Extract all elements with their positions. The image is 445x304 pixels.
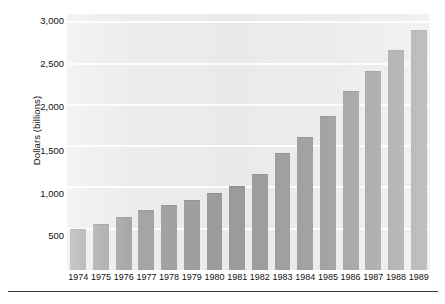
bar-1978 — [161, 205, 177, 270]
x-tick-label: 1977 — [135, 272, 158, 283]
x-axis-tick-labels: 1974197519761977197819791980198119821983… — [67, 272, 430, 286]
y-tick-label: 2,000 — [16, 102, 64, 112]
x-tick-label: 1983 — [271, 272, 294, 283]
x-tick-label: 1985 — [317, 272, 340, 283]
y-tick-label: 2,500 — [16, 59, 64, 69]
y-tick-label: 500 — [16, 231, 64, 241]
x-tick-label: 1987 — [362, 272, 385, 283]
x-tick-label: 1980 — [203, 272, 226, 283]
bar-1983 — [275, 153, 291, 270]
bar-1981 — [229, 186, 245, 270]
bar-1985 — [320, 116, 336, 270]
y-tick-label: 3,000 — [16, 16, 64, 26]
bar-chart-figure: Dollars (billions) 3,000 2,500 2,000 1,5… — [0, 0, 445, 304]
bar-1974 — [70, 229, 86, 270]
x-tick-label: 1986 — [339, 272, 362, 283]
bar-1987 — [365, 71, 381, 270]
bar-1986 — [343, 91, 359, 270]
y-axis-tick-labels: 3,000 2,500 2,000 1,500 1,000 500 — [16, 0, 64, 304]
x-tick-label: 1978 — [158, 272, 181, 283]
bar-1979 — [184, 200, 200, 270]
bar-1975 — [93, 224, 109, 270]
bar-1977 — [138, 210, 154, 270]
plot-area — [67, 14, 430, 270]
bar-1982 — [252, 174, 268, 270]
bar-1976 — [116, 217, 132, 270]
y-tick-label: 1,500 — [16, 146, 64, 156]
x-tick-label: 1979 — [180, 272, 203, 283]
x-tick-label: 1989 — [407, 272, 430, 283]
x-tick-label: 1981 — [226, 272, 249, 283]
x-tick-label: 1984 — [294, 272, 317, 283]
bar-1984 — [297, 137, 313, 270]
x-tick-label: 1975 — [90, 272, 113, 283]
x-tick-label: 1982 — [249, 272, 272, 283]
x-tick-label: 1976 — [112, 272, 135, 283]
y-tick-label: 1,000 — [16, 189, 64, 199]
x-tick-label: 1988 — [385, 272, 408, 283]
bar-1989 — [411, 30, 427, 270]
x-tick-label: 1974 — [67, 272, 90, 283]
bar-1988 — [388, 50, 404, 270]
bar-1980 — [207, 193, 223, 270]
bottom-divider-rule — [8, 291, 438, 292]
bars-layer — [67, 14, 430, 270]
